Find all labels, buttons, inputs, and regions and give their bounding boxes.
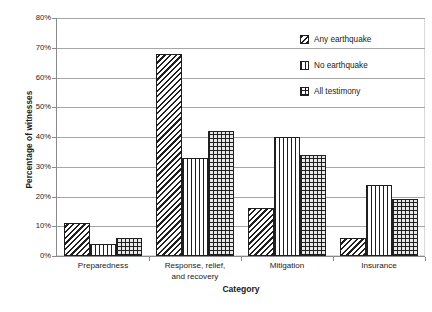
bar [116, 238, 142, 256]
x-axis-category-label-line: Mitigation [241, 261, 333, 272]
bar [274, 137, 300, 256]
y-axis-tick-mark [52, 107, 56, 108]
x-axis-category-label: Response, relief,and recovery [149, 261, 241, 282]
gridline [57, 107, 425, 108]
bar [64, 223, 90, 256]
y-axis-title: Percentage of witnesses [25, 45, 34, 235]
x-axis-category-label-line: Insurance [333, 261, 425, 272]
legend-item[interactable]: Any earthquake [300, 26, 430, 52]
x-axis-category-label-line: and recovery [149, 272, 241, 283]
y-axis-tick-label: 0% [11, 252, 51, 260]
bar [248, 208, 274, 256]
x-axis-category-label-line: Preparedness [57, 261, 149, 272]
legend-item[interactable]: No earthquake [300, 52, 430, 78]
legend-label: No earthquake [314, 61, 368, 70]
y-axis-tick-mark [52, 18, 56, 19]
y-axis-tick-mark [52, 167, 56, 168]
x-axis-title: Category [56, 284, 426, 294]
bar [90, 244, 116, 256]
legend-label: Any earthquake [314, 35, 371, 44]
bar [366, 185, 392, 256]
y-axis-tick-mark [52, 197, 56, 198]
bar [182, 158, 208, 256]
x-axis-tick-mark [425, 257, 426, 261]
legend-label: All testimony [314, 87, 360, 96]
bar [392, 199, 418, 256]
y-axis-tick-label: 80% [11, 14, 51, 22]
bar-chart: 0%10%20%30%40%50%60%70%80% PreparednessR… [0, 0, 432, 312]
bar [300, 155, 326, 256]
legend: Any earthquakeNo earthquakeAll testimony [300, 26, 430, 104]
y-axis-tick-mark [52, 137, 56, 138]
legend-swatch-diagonal-hatch-icon [300, 35, 309, 44]
x-axis-category-label: Preparedness [57, 261, 149, 272]
bar [208, 131, 234, 256]
x-axis-category-label: Mitigation [241, 261, 333, 272]
x-axis-category-label: Insurance [333, 261, 425, 272]
x-axis-category-label-line: Response, relief, [149, 261, 241, 272]
legend-swatch-brick-grid-icon [300, 87, 309, 96]
y-axis-tick-mark [52, 48, 56, 49]
gridline [57, 167, 425, 168]
bar [156, 54, 182, 256]
y-axis-tick-mark [52, 226, 56, 227]
gridline [57, 137, 425, 138]
bar [340, 238, 366, 256]
legend-swatch-vertical-lines-icon [300, 61, 309, 70]
legend-item[interactable]: All testimony [300, 78, 430, 104]
gridline [57, 18, 425, 19]
y-axis-tick-mark [52, 78, 56, 79]
y-axis-tick-mark [52, 256, 56, 257]
